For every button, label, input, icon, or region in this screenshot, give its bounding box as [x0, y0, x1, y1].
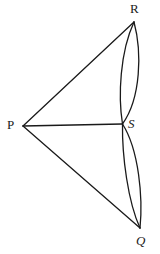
- figure-canvas: [0, 0, 160, 254]
- vertex-label-s: S: [128, 117, 135, 130]
- vertex-label-r: R: [130, 2, 139, 15]
- geometry-figure: P R S Q: [0, 0, 160, 254]
- vertex-label-q: Q: [136, 234, 145, 247]
- vertex-label-p: P: [7, 118, 14, 131]
